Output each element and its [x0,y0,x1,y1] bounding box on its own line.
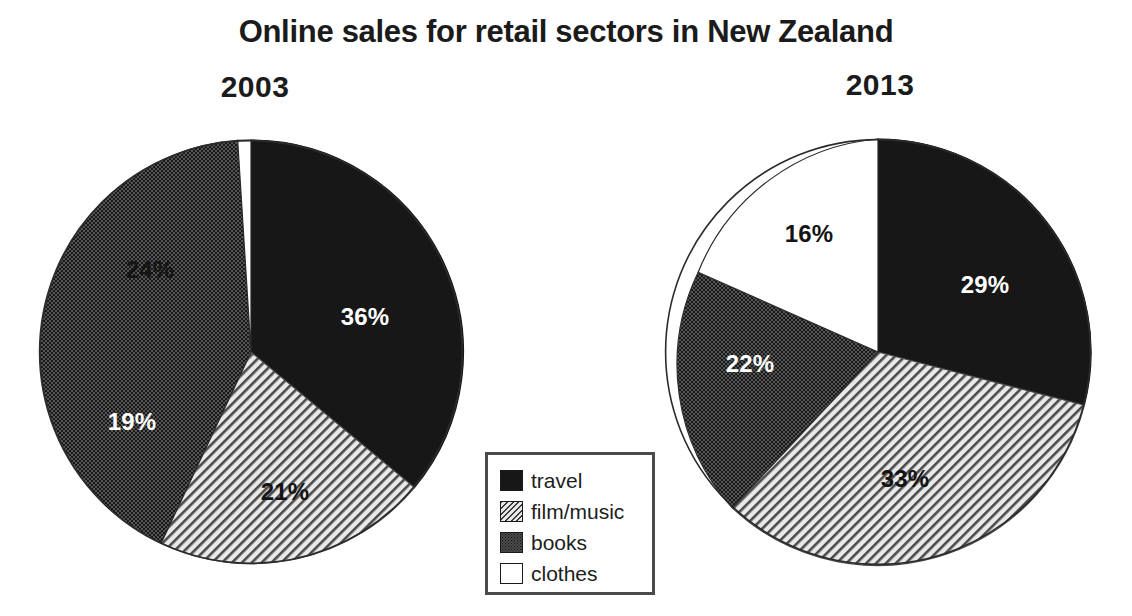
slice-label-2003-travel: 36% [341,303,390,331]
solid-dark-swatch-icon [500,470,523,491]
legend-item-travel: travel [500,465,652,495]
slice-label-2013-clothes: 16% [785,220,834,248]
diagonal-hatch-swatch-icon [500,501,523,522]
legend-label-books: books [531,532,587,553]
slice-label-2003-film: 21% [261,478,310,506]
pie-chart-2013: 29% 33% 22% 16% [665,139,1091,565]
slice-label-2003-books: 19% [108,408,157,436]
pie-chart-2003: 36% 21% 19% 24% [39,140,463,564]
year-label-2013: 2013 [795,68,965,102]
legend-item-film-music: film/music [500,496,652,526]
legend-item-clothes: clothes [500,558,652,588]
speckled-gray-swatch-icon [500,532,523,553]
legend-item-books: books [500,527,652,557]
legend-label-film-music: film/music [531,501,624,522]
legend: travel film/music books clothes [485,452,655,595]
year-label-2003: 2003 [170,70,340,104]
legend-label-travel: travel [531,470,582,491]
page-title: Online sales for retail sectors in New Z… [0,14,1132,50]
slice-label-2013-travel: 29% [961,271,1010,299]
white-swatch-icon [500,563,523,584]
slice-label-2013-books: 22% [726,350,775,378]
slice-label-2013-film: 33% [881,465,930,493]
pie-2003-svg [39,140,463,564]
slice-label-2003-clothes: 24% [126,256,175,284]
legend-label-clothes: clothes [531,563,598,584]
